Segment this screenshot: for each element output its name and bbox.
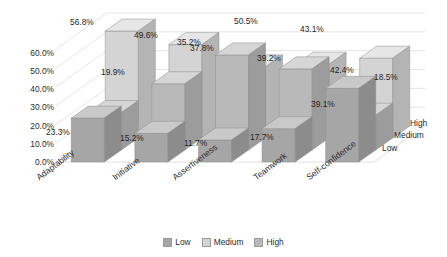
legend-label-medium: Medium — [214, 237, 244, 247]
legend-label-high: High — [266, 237, 283, 247]
y-axis-tick-label: 50.0% — [12, 67, 54, 75]
legend-item-low[interactable]: Low — [163, 237, 190, 247]
data-label-medium: 56.8% — [70, 18, 94, 26]
legend-swatch-low-icon — [163, 238, 172, 247]
chart-legend: Low Medium High — [0, 237, 447, 247]
legend-swatch-high-icon — [254, 238, 263, 247]
data-label-medium: 49.6% — [134, 31, 158, 39]
legend-swatch-medium-icon — [202, 238, 211, 247]
depth-axis-label-low: Low — [382, 144, 397, 152]
data-label-high: 50.5% — [234, 17, 258, 25]
y-axis-tick-label: 40.0% — [12, 85, 54, 93]
data-label-high: 35.2% — [177, 38, 201, 46]
y-axis-tick-label: 60.0% — [12, 49, 54, 57]
chart-3d-clustered-column: 60.0% 50.0% 40.0% 30.0% 20.0% 10.0% 0.0%… — [0, 0, 447, 257]
depth-axis-label-high: High — [410, 119, 427, 127]
legend-label-low: Low — [175, 237, 190, 247]
data-label-low: 39.1% — [311, 100, 335, 108]
data-label-medium: 42.4% — [330, 66, 354, 74]
data-label-high: 18.5% — [374, 73, 398, 81]
depth-axis-label-medium: Medium — [394, 131, 424, 139]
data-label-high: 43.1% — [300, 25, 324, 33]
legend-item-high[interactable]: High — [254, 237, 283, 247]
legend-item-medium[interactable]: Medium — [202, 237, 244, 247]
data-label-low: 11.7% — [184, 139, 207, 147]
data-label-low: 15.2% — [120, 134, 144, 142]
data-label-medium: 39.2% — [257, 54, 281, 62]
y-axis-tick-label: 10.0% — [12, 140, 54, 148]
data-label-low: 17.7% — [250, 133, 274, 141]
data-label-low: 23.3% — [46, 128, 70, 136]
data-label-high: 19.9% — [101, 68, 125, 76]
y-axis-tick-label: 30.0% — [12, 103, 54, 111]
